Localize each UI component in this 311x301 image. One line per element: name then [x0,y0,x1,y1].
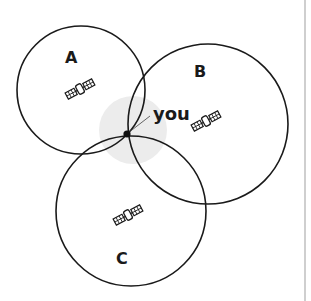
satellite-icon [112,204,143,227]
satellite-label-c: C [116,251,128,267]
diagram-canvas [0,0,311,301]
satellite-icon [64,78,95,101]
trilateration-diagram: A B C you [0,0,311,301]
receiver-label: you [153,105,190,123]
satellite-icon [190,110,221,133]
satellite-label-a: A [65,50,77,66]
satellite-label-b: B [194,64,206,80]
receiver-point [123,130,130,137]
page-edge-rule [304,0,306,301]
